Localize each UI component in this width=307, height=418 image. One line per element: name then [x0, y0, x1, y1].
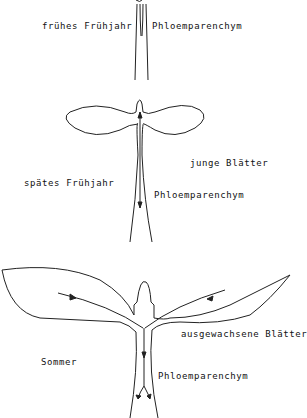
stage3-tissue-label: Phloemparenchym [158, 371, 248, 381]
stage2-tissue-label: Phloemparenchym [154, 190, 244, 200]
stage2-leaves-label: junge Blätter [190, 158, 268, 168]
stage2-season-label: spätes Frühjahr [24, 178, 114, 188]
stage3-plant [2, 268, 290, 418]
stage2-plant [66, 100, 204, 242]
stage1-season-label: frühes Frühjahr [42, 21, 132, 31]
stage1-stem [135, 0, 148, 80]
stage3-season-label: Sommer [41, 357, 77, 367]
stage1-tissue-label: Phloemparenchym [152, 21, 242, 31]
phloem-transport-diagram [0, 0, 307, 418]
stage3-leaves-label: ausgewachsene Blätter [181, 329, 307, 339]
